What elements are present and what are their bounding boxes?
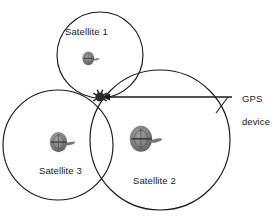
label-satellite-3: Satellite 3: [39, 165, 82, 177]
label-gps-device-line-2: device: [242, 116, 270, 127]
coverage-circle-satellite-1: [57, 12, 143, 98]
gps-trilateration-figure: Satellite 1 Satellite 2 Satellite 3 GPS …: [0, 0, 277, 219]
coverage-circle-satellite-3: [3, 90, 113, 200]
label-gps-device: GPS device: [231, 81, 270, 139]
callout-leader-line: [216, 97, 228, 113]
intersection-dot-group: [93, 90, 107, 102]
coverage-circle-satellite-2: [90, 70, 230, 210]
label-satellite-2: Satellite 2: [133, 175, 176, 187]
label-satellite-1: Satellite 1: [65, 26, 108, 38]
label-gps-device-line-1: GPS: [242, 93, 262, 104]
